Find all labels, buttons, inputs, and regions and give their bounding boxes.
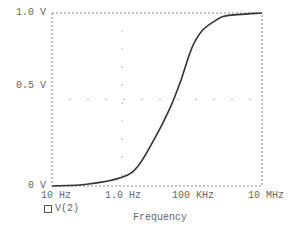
series-v2-curve <box>52 13 262 186</box>
x-tick-label-2: 100 KHz <box>172 190 214 201</box>
grid-dots <box>69 30 250 175</box>
plot-frame <box>52 13 262 186</box>
legend-entry-label: V(2) <box>55 203 79 214</box>
y-tick-label-mid: 0.5 V <box>0 80 46 91</box>
legend: V(2) <box>44 203 79 214</box>
x-axis-title: Frequency <box>133 212 187 223</box>
x-tick-label-0: 10 Hz <box>41 190 71 201</box>
x-tick-label-3: 10 MHz <box>248 190 284 201</box>
legend-marker-icon <box>44 205 52 213</box>
x-tick-label-1: 1.0 Hz <box>105 190 141 201</box>
y-tick-label-bottom: 0 V <box>0 180 46 191</box>
y-tick-label-top: 1.0 V <box>0 7 46 18</box>
